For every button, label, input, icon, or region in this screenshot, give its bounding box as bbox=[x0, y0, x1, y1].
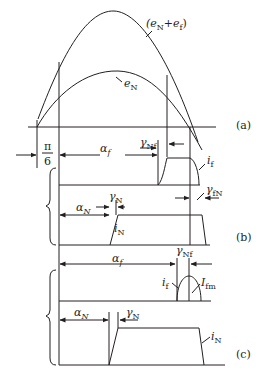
label-alpha-N-b: αN bbox=[76, 201, 91, 216]
label-alpha-f-c: αf bbox=[112, 252, 124, 267]
label-iN-b: iN bbox=[114, 222, 125, 237]
label-alpha-f: αf bbox=[100, 142, 112, 157]
leader-iN-c bbox=[202, 337, 210, 343]
label-gamma-Nf-c: γNf bbox=[176, 244, 194, 259]
pi6-denominator: 6 bbox=[44, 155, 51, 168]
label-if-c: if bbox=[162, 276, 170, 291]
curve-eN-plus-ef bbox=[38, 11, 198, 142]
pi6-numerator: π bbox=[44, 140, 51, 153]
label-if-b: if bbox=[207, 154, 215, 169]
leader-eN bbox=[116, 77, 122, 82]
label-eN-plus-ef: (eN+ef) bbox=[146, 17, 187, 32]
panel-label-a: (a) bbox=[236, 119, 251, 132]
panel-label-b: (b) bbox=[236, 231, 252, 244]
label-iN-c: iN bbox=[211, 330, 222, 345]
label-gamma-N-c: γN bbox=[126, 306, 140, 321]
waveform-iN-c bbox=[109, 328, 204, 365]
brace-b bbox=[46, 168, 56, 245]
commutation-diagram: (eN+ef) eN (a) π 6 αf γNf if γfN αN γN bbox=[0, 0, 266, 372]
label-alpha-N-c: αN bbox=[74, 306, 89, 321]
diagram-canvas: (eN+ef) eN (a) π 6 αf γNf if γfN αN γN bbox=[0, 0, 266, 372]
label-eN: eN bbox=[124, 77, 138, 92]
panel-label-c: (c) bbox=[236, 348, 251, 361]
curve-eN bbox=[37, 71, 202, 150]
label-Ifm: Ifm bbox=[200, 276, 216, 291]
leader-Ifm bbox=[192, 284, 200, 293]
panel-a: (eN+ef) eN (a) bbox=[28, 11, 251, 365]
label-gamma-Nf-b: γNf bbox=[140, 136, 158, 151]
angle-annotations-top: π 6 αf γNf bbox=[16, 136, 184, 185]
leader-if-b bbox=[199, 164, 205, 170]
waveform-if-b bbox=[158, 158, 199, 185]
label-gamma-fN: γfN bbox=[206, 183, 223, 198]
leader-gamma-fN bbox=[197, 193, 204, 200]
brace-c bbox=[46, 270, 56, 365]
panel-c: αf γNf if Ifm αN γN iN (c) bbox=[46, 244, 251, 365]
panel-b: if γfN αN γN iN (b) bbox=[46, 154, 252, 245]
